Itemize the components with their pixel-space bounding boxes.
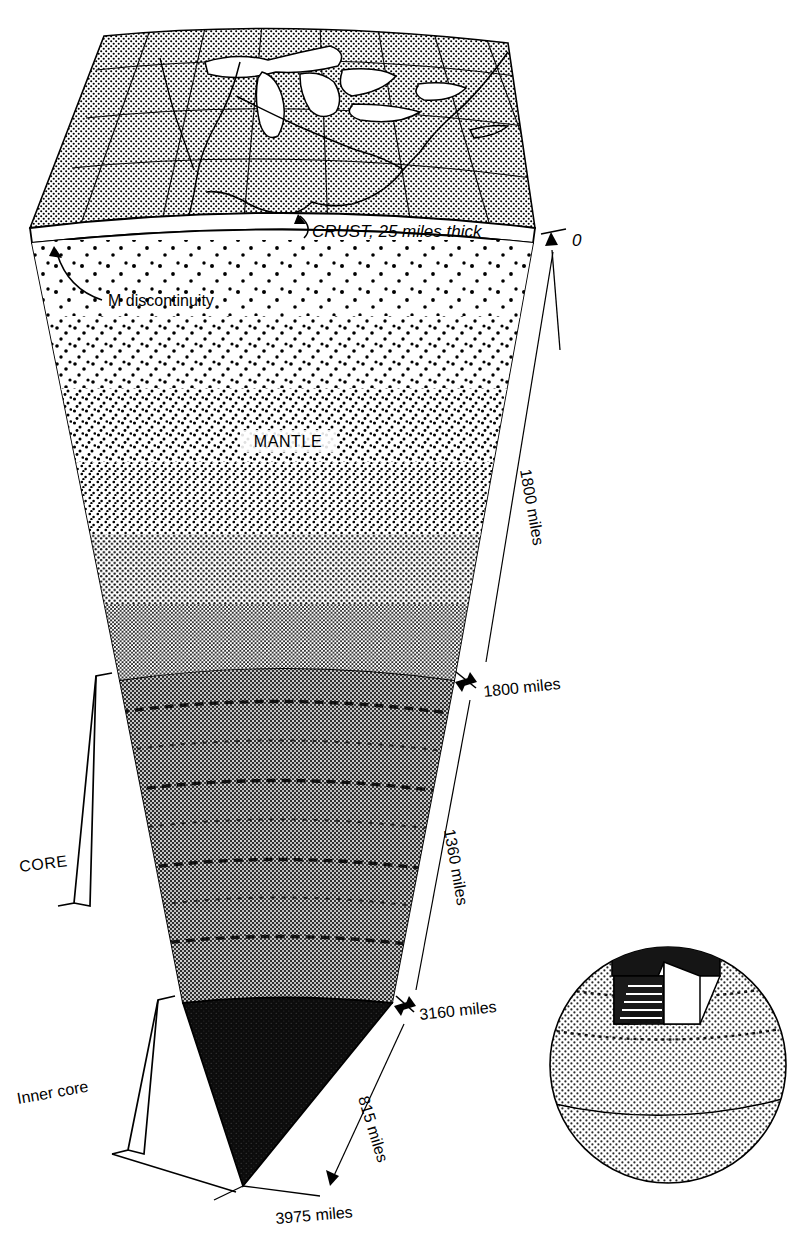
- crust-label: CRUST, 25 miles thick: [312, 222, 483, 241]
- mantle-stipple: [20, 240, 550, 688]
- depth-label-3160: 3160 miles: [419, 998, 498, 1023]
- depth-marker-3160: 3160 miles: [394, 996, 497, 1023]
- depth-label-0: 0: [572, 231, 582, 250]
- core-brace: [58, 673, 112, 906]
- earth-cross-section-diagram: MANTLE CORE Inner: [0, 0, 787, 1253]
- figure-canvas: MANTLE CORE Inner: [0, 0, 787, 1253]
- depth-marker-1800: 1800 miles: [455, 672, 561, 700]
- span-label-inner-core: 815 miles: [355, 1094, 391, 1164]
- span-label-mantle: 1800 miles: [517, 468, 547, 547]
- depth-label-3975: 3975 miles: [275, 1203, 354, 1227]
- inner-core-layer: [183, 998, 392, 1187]
- m-discontinuity-label: M discontinuity: [108, 292, 214, 309]
- depth-label-1800: 1800 miles: [483, 675, 562, 700]
- outer-core-texture: [100, 655, 480, 1015]
- surface-map-cap: [30, 24, 560, 240]
- mantle-label: MANTLE: [254, 433, 323, 450]
- inner-core-label: Inner core: [16, 1078, 90, 1107]
- inner-core-brace: [112, 996, 175, 1154]
- outer-core-layer: [100, 655, 480, 1015]
- span-label-outer-core: 1360 miles: [441, 828, 471, 907]
- inset-globe-key: [550, 916, 786, 1183]
- core-label: CORE: [18, 852, 68, 875]
- wedge-edge-guides: [112, 1154, 236, 1192]
